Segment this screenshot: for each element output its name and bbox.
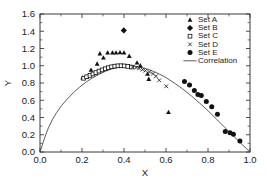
y-tick-label: 1.0 — [22, 60, 35, 71]
data-point — [105, 50, 110, 54]
chart-figure: 0.00.20.40.60.81.00.00.20.40.60.81.01.21… — [0, 0, 267, 181]
data-point — [199, 93, 204, 98]
data-point — [157, 78, 161, 82]
data-point — [118, 50, 123, 54]
x-tick-label: 0.4 — [117, 154, 130, 165]
data-point — [237, 138, 242, 143]
y-tick-label: 0.4 — [22, 112, 35, 123]
y-axis-title: Y — [2, 79, 13, 86]
plot-frame — [40, 14, 250, 152]
data-point — [187, 82, 192, 87]
y-tick-label: 1.6 — [22, 8, 35, 19]
data-point — [114, 50, 119, 54]
x-tick-label: 1.0 — [243, 154, 256, 165]
y-tick-label: 1.2 — [22, 43, 35, 54]
series-set-d — [131, 65, 168, 88]
data-point — [122, 50, 127, 54]
legend-label: Correlation — [198, 56, 237, 65]
legend-marker-set-b — [187, 25, 193, 31]
data-point — [146, 77, 151, 81]
series-set-b — [121, 27, 127, 33]
data-point — [121, 27, 127, 33]
legend-marker-set-e — [188, 50, 193, 55]
data-point — [166, 110, 171, 114]
correlation-curve — [40, 66, 250, 152]
series-set-c — [82, 64, 133, 80]
data-point — [144, 69, 148, 73]
data-point — [215, 112, 220, 117]
x-axis-title: X — [142, 167, 149, 178]
scatter-plot: 0.00.20.40.60.81.00.00.20.40.60.81.01.21… — [0, 0, 267, 181]
x-tick-label: 0.2 — [75, 154, 88, 165]
y-tick-label: 0.6 — [22, 95, 35, 106]
data-point — [89, 67, 94, 71]
series-set-e — [182, 79, 242, 144]
x-tick-label: 0.6 — [159, 154, 172, 165]
data-point — [154, 74, 158, 78]
data-point — [97, 51, 102, 55]
x-tick-label: 0.8 — [201, 154, 214, 165]
data-point — [141, 68, 145, 72]
data-point — [95, 61, 100, 65]
x-tick-label: 0.0 — [33, 154, 46, 165]
y-tick-label: 0.2 — [22, 129, 35, 140]
legend: Set ASet BSet CSet DSet ECorrelation — [183, 15, 237, 65]
data-point — [182, 79, 187, 84]
data-point — [127, 54, 132, 58]
data-point — [135, 60, 140, 64]
data-point — [101, 55, 106, 59]
data-point — [231, 132, 236, 137]
data-point — [209, 104, 214, 109]
data-point — [192, 88, 197, 93]
data-point — [148, 70, 152, 74]
y-tick-label: 0.8 — [22, 77, 35, 88]
legend-marker-set-d — [188, 43, 192, 47]
data-point — [204, 99, 209, 104]
legend-marker-set-c — [188, 34, 192, 38]
y-tick-label: 0.0 — [22, 146, 35, 157]
legend-marker-set-a — [188, 17, 193, 21]
y-tick-label: 1.4 — [22, 26, 35, 37]
data-point — [223, 129, 228, 134]
data-point — [164, 84, 168, 88]
